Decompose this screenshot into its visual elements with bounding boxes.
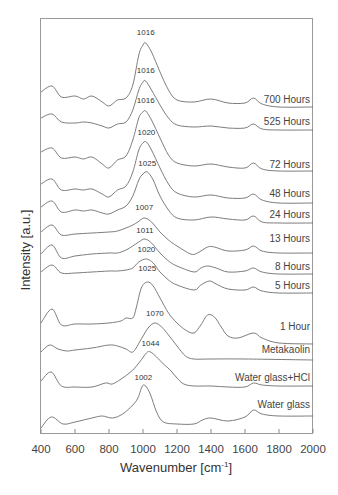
peak-label: 1016: [137, 66, 155, 75]
series-label: Water glass: [258, 399, 310, 410]
peak-label: 1007: [135, 203, 153, 212]
series-label: 24 Hours: [269, 209, 310, 220]
peak-label: 1044: [142, 339, 160, 348]
peak-label: 1025: [138, 159, 156, 168]
peak-label: 1020: [138, 245, 156, 254]
x-tick-label: 600: [65, 443, 84, 455]
peak-labels: 1016101610161020102510071011102010251070…: [134, 28, 164, 382]
peak-label: 1070: [146, 309, 164, 318]
spectrum-curve: [41, 282, 313, 344]
series-label: 48 Hours: [269, 188, 310, 199]
peak-label: 1002: [134, 373, 152, 382]
ftir-spectra-chart: 400600800100012001400160018002000 700 Ho…: [0, 0, 338, 495]
series-label: Metakaolin: [262, 344, 310, 355]
series-label: 13 Hours: [269, 233, 310, 244]
x-tick-label: 400: [31, 443, 50, 455]
y-axis-title: Intensity [a.u.]: [18, 210, 33, 291]
x-axis-title-main: Wavenumber [cm: [120, 460, 221, 475]
x-axis-tick-labels: 400600800100012001400160018002000: [31, 443, 325, 455]
series-label: Water glass+HCl: [235, 372, 310, 383]
series-labels: 700 Hours525 Hours72 Hours48 Hours24 Hou…: [235, 94, 311, 410]
series-label: 1 Hour: [280, 321, 311, 332]
x-axis-ticks: [41, 429, 313, 433]
spectrum-curve: [41, 259, 313, 293]
series-label: 5 Hours: [275, 280, 310, 291]
x-tick-label: 1000: [130, 443, 156, 455]
x-tick-label: 1400: [198, 443, 224, 455]
peak-label: 1016: [137, 28, 155, 37]
series-label: 8 Hours: [275, 261, 310, 272]
x-axis-title: Wavenumber [cm-1]: [120, 460, 232, 475]
x-tick-label: 1200: [164, 443, 190, 455]
x-tick-label: 1600: [232, 443, 258, 455]
x-tick-label: 2000: [300, 443, 326, 455]
series-label: 700 Hours: [264, 94, 310, 105]
peak-label: 1020: [138, 128, 156, 137]
spectrum-curve: [41, 239, 313, 274]
series-label: 72 Hours: [269, 159, 310, 170]
x-axis-title-close: ]: [228, 460, 232, 475]
peak-label: 1025: [138, 264, 156, 273]
peak-label: 1016: [137, 96, 155, 105]
x-tick-label: 800: [99, 443, 118, 455]
x-tick-label: 1800: [266, 443, 292, 455]
peak-label: 1011: [136, 226, 154, 235]
series-label: 525 Hours: [264, 116, 310, 127]
